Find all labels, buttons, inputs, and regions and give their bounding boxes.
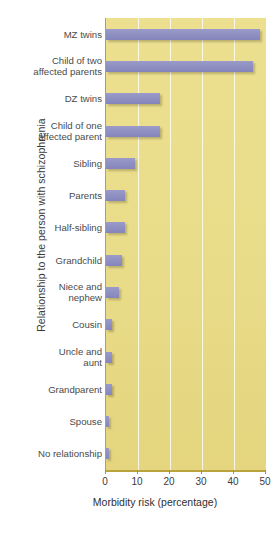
- category-label: Half-sibling: [26, 222, 102, 233]
- morbidity-risk-bar-chart: Relationship to the person with schizoph…: [0, 0, 278, 544]
- category-label-column: MZ twinsChild of two affected parentsDZ …: [26, 18, 102, 470]
- x-tick-50: [265, 470, 266, 474]
- category-label: DZ twins: [26, 93, 102, 104]
- category-label: Spouse: [26, 416, 102, 427]
- category-label: Uncle and aunt: [26, 346, 102, 368]
- x-tick-label: 0: [91, 476, 119, 487]
- bar: [106, 352, 112, 363]
- bar: [106, 29, 260, 40]
- bar: [106, 93, 160, 104]
- category-label: Child of two affected parents: [26, 55, 102, 77]
- category-label: MZ twins: [26, 29, 102, 40]
- x-tick-label: 30: [187, 476, 215, 487]
- x-axis-title: Morbidity risk (percentage): [40, 496, 270, 508]
- x-tick-0: [105, 470, 106, 474]
- bar: [106, 319, 112, 330]
- bar: [106, 448, 109, 459]
- gridline-40: [234, 18, 235, 470]
- x-tick-40: [233, 470, 234, 474]
- bar: [106, 126, 160, 137]
- bar: [106, 416, 109, 427]
- category-label: Sibling: [26, 158, 102, 169]
- x-tick-label: 40: [219, 476, 247, 487]
- x-tick-20: [169, 470, 170, 474]
- bar: [106, 287, 119, 298]
- x-tick-10: [137, 470, 138, 474]
- gridline-10: [138, 18, 139, 470]
- gridline-30: [202, 18, 203, 470]
- category-label: Grandparent: [26, 384, 102, 395]
- gridline-20: [170, 18, 171, 470]
- x-axis-line: [105, 470, 266, 472]
- category-label: Child of one affected parent: [26, 120, 102, 142]
- x-tick-label: 50: [251, 476, 278, 487]
- bar: [106, 61, 253, 72]
- x-tick-label: 10: [123, 476, 151, 487]
- bar: [106, 190, 125, 201]
- plot-area: [105, 18, 266, 470]
- category-label: Niece and nephew: [26, 281, 102, 303]
- x-tick-label: 20: [155, 476, 183, 487]
- bar: [106, 222, 125, 233]
- bar: [106, 255, 122, 266]
- category-label: Cousin: [26, 319, 102, 330]
- x-tick-30: [201, 470, 202, 474]
- bar: [106, 384, 112, 395]
- bar: [106, 158, 135, 169]
- category-label: Parents: [26, 190, 102, 201]
- category-label: No relationship: [26, 448, 102, 459]
- category-label: Grandchild: [26, 255, 102, 266]
